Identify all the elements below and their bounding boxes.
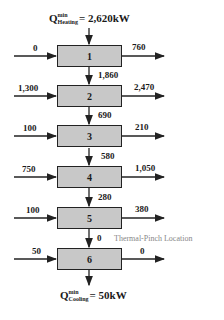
outflow-2: 2,470 (134, 82, 154, 92)
interval-box-4: 4 (57, 166, 122, 188)
cooling-label: QminCooling= 50kW (60, 289, 127, 303)
cascade-4-5: 280 (98, 192, 112, 202)
cascade-2-3: 690 (98, 110, 112, 120)
outflow-5: 380 (135, 204, 149, 214)
inflow-5: 100 (26, 205, 40, 215)
inflow-1: 0 (33, 43, 38, 53)
interval-box-1: 1 (57, 45, 122, 67)
inflow-2: 1,300 (18, 83, 38, 93)
pinch-location-label: Thermal-Pinch Location (114, 234, 192, 243)
heating-label: QminHeating= 2,620kW (49, 12, 130, 26)
inflow-6: 50 (32, 246, 41, 256)
cascade-1-2: 1,860 (98, 70, 118, 80)
inflow-3: 100 (23, 123, 37, 133)
inflow-4: 750 (22, 164, 36, 174)
interval-box-5: 5 (57, 207, 122, 229)
interval-box-2: 2 (57, 85, 122, 107)
interval-box-6: 6 (57, 248, 122, 270)
outflow-3: 210 (135, 122, 149, 132)
outflow-1: 760 (132, 42, 146, 52)
outflow-4: 1,050 (135, 163, 155, 173)
outflow-6: 0 (140, 246, 145, 256)
cascade-3-4: 580 (101, 151, 115, 161)
cascade-5-6: 0 (97, 233, 102, 243)
interval-box-3: 3 (57, 125, 122, 147)
